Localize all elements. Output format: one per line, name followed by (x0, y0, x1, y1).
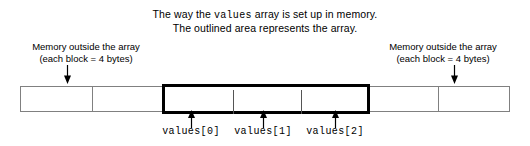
memory-outside-left-line-1: Memory outside the array (6, 41, 166, 53)
caption-line-2: The outlined area represents the array. (0, 22, 530, 35)
memory-outside-right-label: Memory outside the array (each block = 4… (362, 41, 524, 65)
array-element-label-1: values[1] (225, 126, 301, 137)
memory-block-divider-right (438, 87, 439, 111)
array-memory-diagram: The way the values array is set up in me… (0, 0, 530, 146)
array-cell-divider-2 (301, 90, 302, 114)
diagram-caption: The way the values array is set up in me… (0, 8, 530, 35)
array-element-label-0: values[0] (153, 126, 229, 137)
memory-outside-left-label: Memory outside the array (each block = 4… (6, 41, 166, 65)
memory-outside-right-line-1: Memory outside the array (362, 41, 524, 53)
memory-strip (20, 86, 510, 112)
caption-line-1-suffix: array is set up in memory. (252, 8, 378, 20)
arrow-down-right-icon (450, 65, 459, 85)
caption-line-1-prefix: The way the (153, 8, 214, 20)
array-element-label-2: values[2] (297, 126, 373, 137)
memory-outside-left-line-2: (each block = 4 bytes) (6, 53, 166, 65)
memory-block-divider-left (92, 87, 93, 111)
memory-outside-right-line-2: (each block = 4 bytes) (362, 53, 524, 65)
array-cell-divider-1 (233, 90, 234, 114)
caption-line-1: The way the values array is set up in me… (0, 8, 530, 22)
caption-array-name: values (214, 10, 252, 21)
arrow-down-left-icon (63, 65, 72, 85)
